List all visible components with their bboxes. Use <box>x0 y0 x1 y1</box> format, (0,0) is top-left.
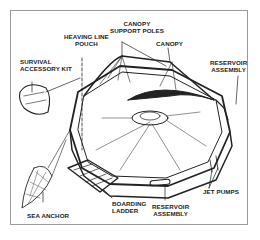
canopy-opening <box>128 90 214 100</box>
label-reservoir-assembly-bottom: RESERVOIR ASSEMBLY <box>152 203 189 217</box>
label-survival-accessory-kit: SURVIVAL ACCESSORY KIT <box>20 58 72 72</box>
survival-kit <box>20 85 50 114</box>
label-boarding-ladder: BOARDING LADDER <box>112 200 147 214</box>
label-heaving-line-pouch: HEAVING LINE POUCH <box>64 33 109 47</box>
label-sea-anchor: SEA ANCHOR <box>27 212 69 219</box>
label-canopy: CANOPY <box>156 40 183 47</box>
label-canopy-support-poles: CANOPY SUPPORT POLES <box>110 20 164 34</box>
center-hatch <box>132 111 168 125</box>
label-reservoir-assembly-top: RESERVOIR ASSEMBLY <box>210 59 247 73</box>
label-jet-pumps: JET PUMPS <box>203 188 239 195</box>
sea-anchor <box>22 166 52 208</box>
raft-outer-tube <box>70 66 230 186</box>
